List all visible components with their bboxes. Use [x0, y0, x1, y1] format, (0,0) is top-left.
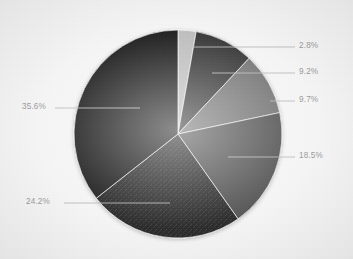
slice-label-2: 9.2%	[299, 68, 318, 76]
pie-slices-group	[74, 30, 282, 238]
pie-chart-canvas	[0, 0, 353, 259]
slice-label-3: 9.7%	[299, 96, 318, 104]
slice-label-6: 35.6%	[22, 103, 46, 111]
slice-label-5: 24.2%	[26, 198, 50, 206]
pie-chart-figure: 2.8% 9.2% 9.7% 18.5% 24.2% 35.6%	[0, 0, 353, 259]
slice-label-4: 18.5%	[299, 152, 323, 160]
slice-label-1: 2.8%	[299, 42, 318, 50]
